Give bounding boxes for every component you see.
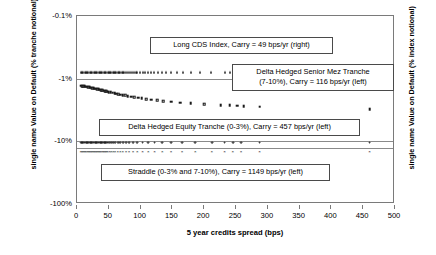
data-point	[82, 71, 84, 74]
data-point	[99, 71, 101, 74]
data-point	[105, 71, 107, 74]
data-point	[107, 71, 109, 74]
ann-senior-mez: Delta Hedged Senior Mez Tranche(7-10%), …	[232, 64, 394, 91]
data-point	[101, 150, 104, 153]
data-point	[119, 71, 121, 74]
data-point	[90, 71, 92, 74]
data-point	[82, 85, 85, 88]
data-point	[113, 150, 116, 153]
data-point	[85, 85, 88, 88]
data-point	[101, 71, 103, 74]
data-point	[142, 71, 144, 74]
data-point	[85, 71, 87, 74]
x-axis-tick-labels: 050100150200250300350400450500	[76, 205, 394, 221]
data-point	[170, 101, 173, 104]
data-point	[150, 71, 152, 74]
data-point	[203, 103, 206, 106]
chart-figure: single name Value on Default (% tranche …	[0, 0, 436, 255]
data-point	[119, 93, 122, 96]
data-point	[88, 86, 91, 89]
data-point	[117, 93, 120, 96]
annotation-line: (7-10%), Carry = 116 bps/yr (left)	[238, 77, 388, 87]
data-point	[157, 71, 159, 74]
data-point	[123, 71, 125, 74]
y-tick-label: -10%	[2, 136, 72, 145]
x-tick-mark	[171, 205, 172, 209]
data-point	[161, 71, 163, 74]
data-point	[108, 150, 111, 153]
data-point	[98, 71, 100, 74]
data-point	[98, 150, 101, 153]
data-point	[108, 91, 111, 94]
data-point	[153, 71, 155, 74]
data-point	[102, 150, 105, 153]
y-axis-right-title: single name Value on Default (% index no…	[407, 30, 416, 170]
data-point	[239, 150, 242, 153]
data-point	[180, 150, 183, 153]
data-point	[258, 105, 261, 108]
data-point	[84, 150, 87, 153]
data-point	[90, 86, 93, 89]
data-point	[129, 71, 131, 74]
ann-straddle: Straddle (0-3% and 7-10%), Carry = 1149 …	[101, 164, 330, 181]
data-point	[176, 71, 178, 74]
data-point	[83, 150, 86, 153]
data-point	[80, 85, 83, 88]
data-point	[87, 86, 90, 89]
data-point	[224, 71, 226, 74]
data-point	[108, 71, 110, 74]
data-point	[100, 71, 102, 74]
data-point	[91, 150, 94, 153]
data-point	[147, 150, 150, 153]
data-point	[242, 105, 245, 108]
y-tick-label: -1%	[2, 73, 72, 82]
data-point	[84, 71, 86, 74]
data-point	[124, 150, 127, 153]
data-point	[139, 71, 141, 74]
data-point	[89, 150, 92, 153]
ann-equity: Delta Hedged Equity Tranche (0-3%), Carr…	[99, 119, 360, 136]
data-point	[81, 71, 83, 74]
data-point	[169, 150, 172, 153]
data-point	[105, 150, 108, 153]
annotation-line: Delta Hedged Senior Mez Tranche	[238, 67, 388, 77]
data-point	[91, 87, 94, 90]
data-point	[127, 95, 130, 98]
data-point	[161, 150, 164, 153]
data-point	[115, 71, 117, 74]
data-point	[80, 150, 83, 153]
data-point	[109, 71, 111, 74]
data-point	[86, 71, 88, 74]
data-point	[162, 100, 165, 103]
data-point	[137, 96, 140, 99]
data-point	[93, 150, 96, 153]
data-point	[199, 71, 201, 74]
x-tick-mark	[140, 205, 141, 209]
data-point	[115, 92, 118, 95]
data-point	[97, 88, 100, 91]
x-tick-mark	[362, 205, 363, 209]
data-point	[113, 71, 115, 74]
separator-line-2	[77, 148, 393, 149]
x-tick-mark	[108, 205, 109, 209]
data-point	[94, 71, 96, 74]
data-point	[141, 97, 144, 100]
data-point	[182, 71, 184, 74]
data-point	[127, 150, 130, 153]
data-point	[170, 71, 172, 74]
data-point	[79, 150, 82, 153]
data-point	[127, 71, 129, 74]
data-point	[100, 89, 103, 92]
data-point	[136, 71, 138, 74]
data-point	[190, 71, 192, 74]
data-point	[83, 85, 86, 88]
data-point	[114, 71, 116, 74]
data-point	[122, 71, 124, 74]
x-tick-mark	[330, 205, 331, 209]
data-point	[102, 89, 105, 92]
data-point	[125, 71, 127, 74]
x-tick-mark	[76, 205, 77, 209]
data-point	[210, 150, 213, 153]
x-tick-mark	[235, 205, 236, 209]
data-point	[112, 71, 114, 74]
